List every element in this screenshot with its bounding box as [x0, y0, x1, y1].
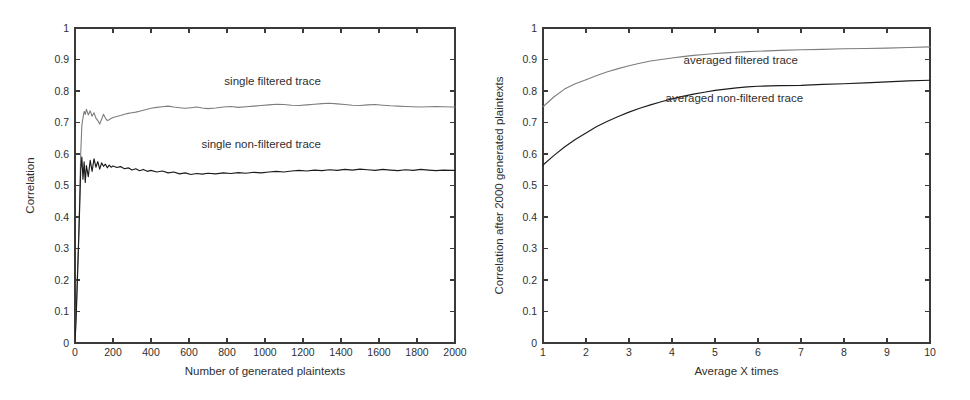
y-tick-label: 0.2 — [54, 274, 69, 286]
left-chart-svg: 00.10.20.30.40.50.60.70.80.9102004006008… — [0, 0, 485, 400]
x-tick-label: 1800 — [405, 346, 429, 358]
x-tick-label: 0 — [72, 346, 78, 358]
series-annotation: averaged non-filtered trace — [666, 92, 803, 104]
series-annotation: single non-filtered trace — [201, 138, 321, 150]
x-tick-label: 3 — [626, 346, 632, 358]
x-tick-label: 600 — [180, 346, 198, 358]
x-tick-label: 1400 — [329, 346, 353, 358]
y-tick-label: 0.6 — [522, 148, 537, 160]
y-tick-label: 0.6 — [54, 148, 69, 160]
y-tick-label: 0.4 — [522, 211, 537, 223]
y-tick-label: 0.9 — [54, 53, 69, 65]
y-tick-label: 0.8 — [54, 85, 69, 97]
y-tick-label: 1 — [63, 22, 69, 34]
x-tick-label: 4 — [669, 346, 675, 358]
x-tick-label: 1600 — [367, 346, 391, 358]
series-line — [75, 157, 455, 343]
y-tick-label: 0.5 — [54, 179, 69, 191]
y-tick-label: 1 — [531, 22, 537, 34]
chart-panel-left: 00.10.20.30.40.50.60.70.80.9102004006008… — [0, 0, 485, 400]
x-tick-label: 1 — [540, 346, 546, 358]
y-tick-label: 0.9 — [522, 53, 537, 65]
figure-container: 00.10.20.30.40.50.60.70.80.9102004006008… — [0, 0, 970, 400]
y-tick-label: 0.1 — [522, 305, 537, 317]
y-tick-label: 0.5 — [522, 179, 537, 191]
x-tick-label: 400 — [142, 346, 160, 358]
x-tick-label: 9 — [884, 346, 890, 358]
y-tick-label: 0.3 — [54, 242, 69, 254]
y-axis-title: Correlation — [24, 157, 36, 213]
x-tick-label: 2000 — [443, 346, 467, 358]
x-tick-label: 800 — [218, 346, 236, 358]
x-tick-label: 5 — [712, 346, 718, 358]
y-tick-label: 0.8 — [522, 85, 537, 97]
x-axis-title: Number of generated plaintexts — [185, 365, 346, 377]
x-tick-label: 2 — [583, 346, 589, 358]
x-tick-label: 6 — [755, 346, 761, 358]
y-axis-title: Correlation after 2000 generated plainte… — [493, 76, 505, 294]
y-tick-label: 0.2 — [522, 274, 537, 286]
x-axis-title: Average X times — [694, 365, 778, 377]
y-tick-label: 0 — [531, 337, 537, 349]
x-tick-label: 200 — [104, 346, 122, 358]
y-tick-label: 0 — [63, 337, 69, 349]
x-tick-label: 1000 — [253, 346, 277, 358]
y-tick-label: 0.3 — [522, 242, 537, 254]
y-tick-label: 0.7 — [54, 116, 69, 128]
x-tick-label: 7 — [798, 346, 804, 358]
plot-frame — [543, 28, 930, 343]
series-annotation: averaged filtered trace — [684, 54, 798, 66]
chart-panel-right: 00.10.20.30.40.50.60.70.80.9112345678910… — [485, 0, 970, 400]
y-tick-label: 0.1 — [54, 305, 69, 317]
series-annotation: single filtered trace — [224, 75, 321, 87]
x-tick-label: 10 — [924, 346, 936, 358]
x-tick-label: 1200 — [291, 346, 315, 358]
y-tick-label: 0.7 — [522, 116, 537, 128]
y-tick-label: 0.4 — [54, 211, 69, 223]
right-chart-svg: 00.10.20.30.40.50.60.70.80.9112345678910… — [485, 0, 970, 400]
x-tick-label: 8 — [841, 346, 847, 358]
